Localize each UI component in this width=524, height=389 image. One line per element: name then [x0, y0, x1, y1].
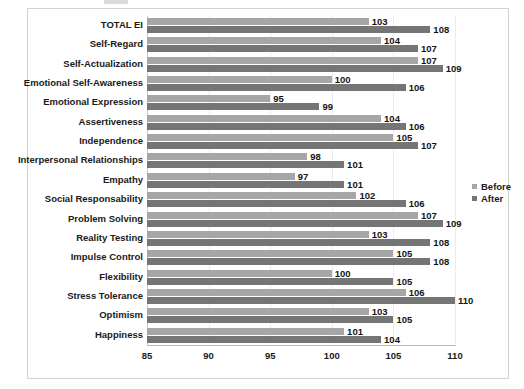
category-label: Self-Actualization: [63, 59, 143, 69]
bar-row: TOTAL EI103108: [147, 18, 455, 37]
bar-row: Stress Tolerance106110: [147, 289, 455, 308]
bar-before: 107: [147, 212, 418, 219]
bar-value-label: 105: [396, 314, 412, 325]
bar-before: 98: [147, 153, 307, 160]
bar-before: 100: [147, 270, 332, 277]
bar-before: 100: [147, 76, 332, 83]
category-label: Empathy: [103, 175, 143, 185]
x-tick-label: 90: [203, 350, 214, 361]
bar-value-label: 108: [433, 256, 449, 267]
bar-after: 106: [147, 84, 406, 91]
legend-swatch-icon: [472, 196, 477, 201]
bar-value-label: 106: [409, 82, 425, 93]
chart-legend: BeforeAfter: [472, 180, 511, 204]
bar-value-label: 107: [421, 140, 437, 151]
bar-value-label: 109: [446, 63, 462, 74]
category-label: Emotional Self-Awareness: [24, 78, 143, 88]
bar-before: 103: [147, 18, 369, 25]
bar-after: 110: [147, 297, 455, 304]
bar-value-label: 101: [347, 159, 363, 170]
bar-row: Happiness101104: [147, 328, 455, 347]
bar-row: Problem Solving107109: [147, 212, 455, 231]
bar-after: 108: [147, 26, 430, 33]
bar-after: 108: [147, 239, 430, 246]
x-tick-label: 85: [142, 350, 153, 361]
bar-row: Emotional Expression9599: [147, 95, 455, 114]
bar-chart: TOTAL EI103108Self-Regard104107Self-Actu…: [0, 0, 524, 389]
category-label: Social Responsability: [45, 194, 143, 204]
category-label: Self-Regard: [90, 39, 143, 49]
bar-value-label: 106: [409, 121, 425, 132]
bar-value-label: 108: [433, 237, 449, 248]
bar-row: Self-Regard104107: [147, 37, 455, 56]
legend-label: Before: [481, 181, 511, 192]
bar-row: Independence105107: [147, 134, 455, 153]
category-label: Flexibility: [99, 272, 143, 282]
x-tick-label: 105: [385, 350, 401, 361]
legend-item[interactable]: Before: [472, 180, 511, 192]
x-tick-label: 110: [447, 350, 462, 361]
category-label: Optimism: [99, 310, 143, 320]
bar-before: 104: [147, 37, 381, 44]
bar-row: Empathy97101: [147, 173, 455, 192]
bar-value-label: 108: [433, 24, 449, 35]
bar-before: 102: [147, 192, 356, 199]
bar-after: 105: [147, 316, 393, 323]
bar-after: 101: [147, 161, 344, 168]
category-label: Impulse Control: [71, 252, 143, 262]
bar-row: Emotional Self-Awareness100106: [147, 76, 455, 95]
category-label: Reality Testing: [76, 233, 143, 243]
legend-swatch-icon: [472, 184, 477, 189]
bar-after: 109: [147, 220, 443, 227]
bar-row: Social Responsability102106: [147, 192, 455, 211]
category-label: Stress Tolerance: [67, 291, 143, 301]
bar-after: 107: [147, 142, 418, 149]
bar-after: 101: [147, 181, 344, 188]
bar-before: 105: [147, 134, 393, 141]
bar-before: 101: [147, 328, 344, 335]
bar-before: 106: [147, 289, 406, 296]
bar-before: 103: [147, 231, 369, 238]
bar-row: Self-Actualization107109: [147, 57, 455, 76]
bar-before: 107: [147, 57, 418, 64]
category-label: Independence: [79, 136, 143, 146]
bar-value-label: 106: [409, 198, 425, 209]
cropped-title-remnant: [104, 0, 128, 4]
bar-after: 106: [147, 123, 406, 130]
legend-label: After: [481, 193, 503, 204]
bar-after: 104: [147, 336, 381, 343]
bar-row: Optimism103105: [147, 308, 455, 327]
bar-value-label: 107: [421, 43, 437, 54]
bar-after: 105: [147, 278, 393, 285]
category-label: Emotional Expression: [43, 97, 143, 107]
bar-value-label: 109: [446, 218, 462, 229]
bar-row: Impulse Control105108: [147, 250, 455, 269]
bar-after: 99: [147, 103, 319, 110]
bar-value-label: 110: [458, 295, 473, 306]
bar-value-label: 105: [396, 276, 412, 287]
bar-before: 95: [147, 95, 270, 102]
bar-before: 103: [147, 308, 369, 315]
category-label: TOTAL EI: [101, 20, 143, 30]
x-tick-label: 95: [265, 350, 276, 361]
x-tick-label: 100: [324, 350, 340, 361]
bar-after: 107: [147, 45, 418, 52]
bar-before: 104: [147, 115, 381, 122]
category-label: Happiness: [95, 330, 143, 340]
bar-before: 105: [147, 250, 393, 257]
bar-value-label: 99: [322, 101, 333, 112]
category-label: Problem Solving: [68, 214, 143, 224]
bar-after: 108: [147, 258, 430, 265]
bar-after: 106: [147, 200, 406, 207]
category-label: Interpersonal Relationships: [18, 155, 143, 165]
bar-value-label: 101: [347, 179, 363, 190]
bar-value-label: 104: [384, 334, 400, 345]
legend-item[interactable]: After: [472, 192, 511, 204]
bar-before: 97: [147, 173, 295, 180]
category-label: Assertiveness: [79, 117, 143, 127]
plot-area: TOTAL EI103108Self-Regard104107Self-Actu…: [147, 16, 455, 345]
bar-after: 109: [147, 65, 443, 72]
